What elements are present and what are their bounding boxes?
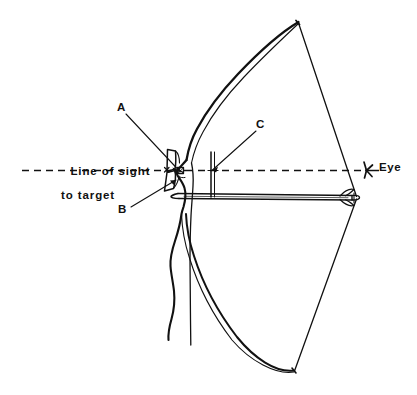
archery-sighting-diagram: A B C Line of sight to target Eye bbox=[0, 0, 417, 395]
label-a: A bbox=[117, 101, 126, 113]
leader-line-c bbox=[213, 131, 257, 170]
line-of-sight-label: Line of sight to target bbox=[54, 153, 150, 225]
bow-riser bbox=[168, 160, 193, 345]
line-of-sight-label-line2: to target bbox=[54, 189, 150, 201]
eye-label: Eye bbox=[379, 161, 401, 173]
line-of-sight-label-line1: Line of sight bbox=[70, 165, 150, 177]
label-c: C bbox=[256, 118, 265, 130]
sight-pin bbox=[208, 152, 218, 197]
arrow-shaft bbox=[171, 189, 360, 205]
